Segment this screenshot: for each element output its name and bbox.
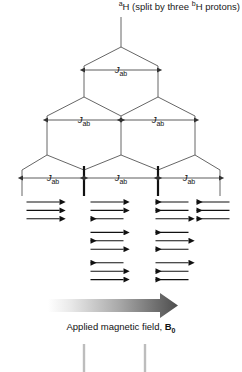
applied-field-arrow xyxy=(48,293,178,318)
j-level3-right-label: Jab xyxy=(183,173,196,183)
j-subscript: ab xyxy=(82,120,90,127)
branch-l1-right xyxy=(121,47,158,66)
branch-l3-e xyxy=(158,155,195,170)
j-subscript: ab xyxy=(119,70,127,77)
bottom-spectrum-peaks xyxy=(84,344,145,372)
field-symbol-subscript: 0 xyxy=(172,327,176,334)
spin-group-quartet-line-4 xyxy=(197,202,230,219)
nmr-splitting-diagram: aH (split by three bH protons) xyxy=(0,0,242,372)
j-level2-left-label: Jab xyxy=(78,115,91,125)
j-level3-mid-label: Jab xyxy=(115,173,128,183)
tree-branch-lines xyxy=(22,17,220,170)
field-caption-text: Applied magnetic field, xyxy=(66,321,164,332)
branch-l3-c xyxy=(84,155,121,170)
field-symbol: B xyxy=(165,321,172,332)
spin-state-arrows xyxy=(27,202,230,280)
branch-l3-b xyxy=(47,155,84,170)
field-arrow-shape xyxy=(48,293,178,318)
j-level2-right-label: Jab xyxy=(152,115,165,125)
spin-group-quartet-line-2 xyxy=(91,202,124,280)
j-subscript: ab xyxy=(119,178,127,185)
spin-group-quartet-line-1 xyxy=(27,202,60,219)
branch-l2-d xyxy=(158,97,195,116)
j-level3-left-label: Jab xyxy=(47,173,60,183)
branch-l2-b xyxy=(84,97,121,116)
branch-l3-a xyxy=(22,155,47,170)
j-subscript: ab xyxy=(51,178,59,185)
j-subscript: ab xyxy=(156,120,164,127)
branch-l3-f xyxy=(195,155,220,170)
applied-field-caption: Applied magnetic field, B0 xyxy=(0,321,242,332)
splitting-tree-svg xyxy=(0,0,242,372)
j-level1-label: Jab xyxy=(115,65,128,75)
branch-l3-d xyxy=(121,155,158,170)
spin-group-quartet-line-3 xyxy=(156,202,189,280)
j-subscript: ab xyxy=(187,178,195,185)
